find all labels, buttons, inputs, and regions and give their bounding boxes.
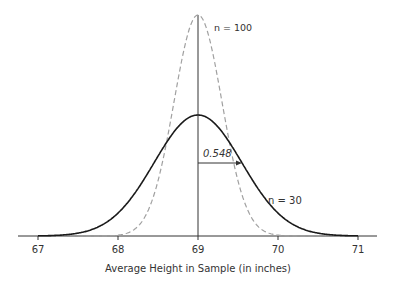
x-tick-label: 69	[192, 244, 205, 255]
x-axis-title: Average Height in Sample (in inches)	[105, 263, 291, 274]
sd-label: 0.548	[203, 148, 232, 159]
label-n30: n = 30	[268, 195, 302, 206]
label-n100: n = 100	[214, 22, 252, 33]
x-tick-label: 71	[352, 244, 365, 255]
x-tick-label: 70	[272, 244, 285, 255]
x-tick-label: 67	[32, 244, 45, 255]
sampling-distribution-chart: 6768697071 0.548 n = 100 n = 30 Average …	[0, 0, 398, 287]
x-tick-label: 68	[112, 244, 125, 255]
x-ticks: 6768697071	[32, 236, 365, 255]
